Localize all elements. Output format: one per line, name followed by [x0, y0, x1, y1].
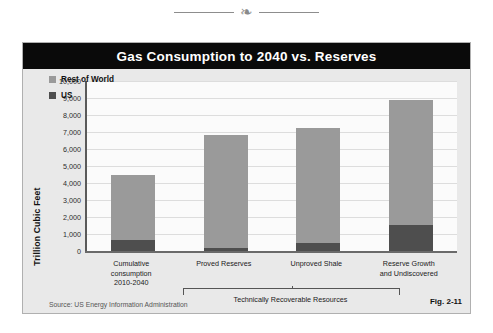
bar-segment-us	[111, 240, 155, 251]
bar-segment-rest-of-world	[204, 135, 248, 248]
floral-ornament-icon: ❧	[240, 4, 253, 19]
x-axis-label-line: Unproved Shale	[270, 259, 362, 269]
y-axis-tick-label: 3,000	[41, 196, 81, 205]
bar-2	[204, 135, 248, 251]
ornament-rule-right	[259, 12, 319, 13]
bar-1	[111, 175, 155, 251]
bracket-label: Technically Recoverable Resources	[183, 295, 398, 304]
plot-area	[85, 81, 457, 251]
bar-segment-rest-of-world	[389, 100, 433, 225]
x-axis-label-line: Cumulative	[85, 259, 177, 269]
y-axis-tick-label: 5,000	[41, 162, 81, 171]
y-axis-title-wrap: Trillion Cubic Feet	[33, 244, 34, 245]
bar-3	[296, 128, 340, 251]
decorative-ornament: ❧	[0, 0, 493, 24]
legend-swatch-us	[49, 92, 56, 99]
y-axis-tick-label: 2,000	[41, 213, 81, 222]
y-axis-tick-label: 8,000	[41, 111, 81, 120]
figure-number-label: Fig. 2-11	[430, 297, 462, 306]
x-axis-category-label: Cumulativeconsumption2010-2040	[85, 259, 177, 288]
figure-container: Gas Consumption to 2040 vs. Reserves Tri…	[22, 42, 471, 314]
gridline	[87, 81, 457, 82]
y-axis-tick-label: 6,000	[41, 145, 81, 154]
bar-segment-rest-of-world	[111, 175, 155, 240]
x-axis-category-label: Reserve Growthand Undiscovered	[363, 259, 455, 278]
chart-title: Gas Consumption to 2040 vs. Reserves	[116, 49, 376, 64]
bar-segment-us	[389, 225, 433, 251]
y-axis-tick-label: 1,000	[41, 230, 81, 239]
x-axis-label-line: Proved Reserves	[178, 259, 270, 269]
bar-segment-us	[296, 243, 340, 251]
x-axis-label-line: 2010-2040	[85, 278, 177, 288]
chart-legend: Rest of World US	[49, 75, 114, 107]
category-group-bracket	[183, 288, 400, 295]
y-axis-tick-label: 0	[41, 247, 81, 256]
legend-label-rest-of-world: Rest of World	[61, 75, 114, 84]
bar-4	[389, 100, 433, 251]
y-axis-tick-label: 4,000	[41, 179, 81, 188]
y-axis-tick-label: 7,000	[41, 128, 81, 137]
x-axis-category-label: Unproved Shale	[270, 259, 362, 269]
legend-label-us: US	[61, 91, 72, 100]
x-axis-baseline	[85, 251, 457, 253]
bar-segment-rest-of-world	[296, 128, 340, 244]
legend-item-rest-of-world: Rest of World	[49, 75, 114, 84]
x-axis-label-line: consumption	[85, 269, 177, 279]
x-axis-category-label: Proved Reserves	[178, 259, 270, 269]
bracket-center-tick	[292, 286, 293, 289]
chart-body: Trillion Cubic Feet 10,0009,0008,0007,00…	[23, 69, 470, 313]
chart-title-bar: Gas Consumption to 2040 vs. Reserves	[23, 43, 470, 69]
x-axis-label-line: and Undiscovered	[363, 269, 455, 279]
legend-swatch-rest-of-world	[49, 76, 56, 83]
ornament-rule-left	[174, 12, 234, 13]
source-note: Source: US Energy Information Administra…	[49, 301, 188, 308]
x-axis-label-line: Reserve Growth	[363, 259, 455, 269]
legend-item-us: US	[49, 91, 114, 100]
